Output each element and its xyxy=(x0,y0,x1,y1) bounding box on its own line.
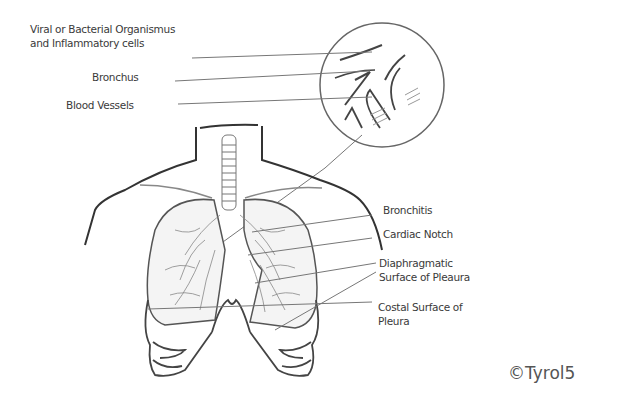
label-bronchitis: Bronchitis xyxy=(383,203,432,217)
label-line: Viral or Bacterial Organismus xyxy=(30,22,175,36)
label-line: Cardiac Notch xyxy=(383,227,453,241)
label-organisms: Viral or Bacterial Organismus and Inflam… xyxy=(30,22,175,50)
label-line: Bronchus xyxy=(92,70,139,84)
magnified-inset xyxy=(320,23,444,147)
label-blood-vessels: Blood Vessels xyxy=(66,98,134,112)
label-line: Costal Surface of xyxy=(378,300,462,314)
label-diaphragmatic-surface: Diaphragmatic Surface of Pleaura xyxy=(379,256,470,284)
label-line: Pleura xyxy=(378,314,462,328)
label-line: Diaphragmatic xyxy=(379,256,470,270)
label-costal-surface: Costal Surface of Pleura xyxy=(378,300,462,328)
label-line: Blood Vessels xyxy=(66,98,134,112)
label-line: and Inflammatory cells xyxy=(30,36,175,50)
copyright-notice: ©Tyrol5 xyxy=(508,363,575,383)
label-bronchus: Bronchus xyxy=(92,70,139,84)
lung-illustration xyxy=(0,0,633,411)
label-line: Surface of Pleaura xyxy=(379,270,470,284)
label-cardiac-notch: Cardiac Notch xyxy=(383,227,453,241)
label-line: Bronchitis xyxy=(383,203,432,217)
trachea xyxy=(222,135,236,210)
